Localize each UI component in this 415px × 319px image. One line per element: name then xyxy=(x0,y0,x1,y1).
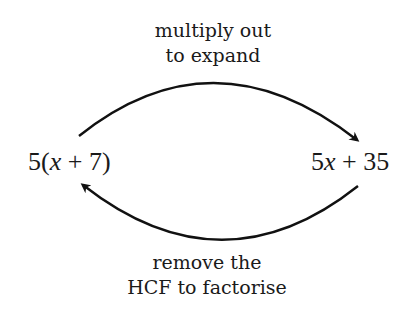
factorise-arrow xyxy=(83,185,358,240)
expanded-expression: 5x + 35 xyxy=(311,147,389,177)
expand-arrow xyxy=(79,83,357,140)
factorise-label: remove the HCF to factorise xyxy=(107,250,307,300)
factorise-label-line2: HCF to factorise xyxy=(107,275,307,300)
factorise-label-line1: remove the xyxy=(107,250,307,275)
factorised-expression: 5(x + 7) xyxy=(28,147,111,177)
